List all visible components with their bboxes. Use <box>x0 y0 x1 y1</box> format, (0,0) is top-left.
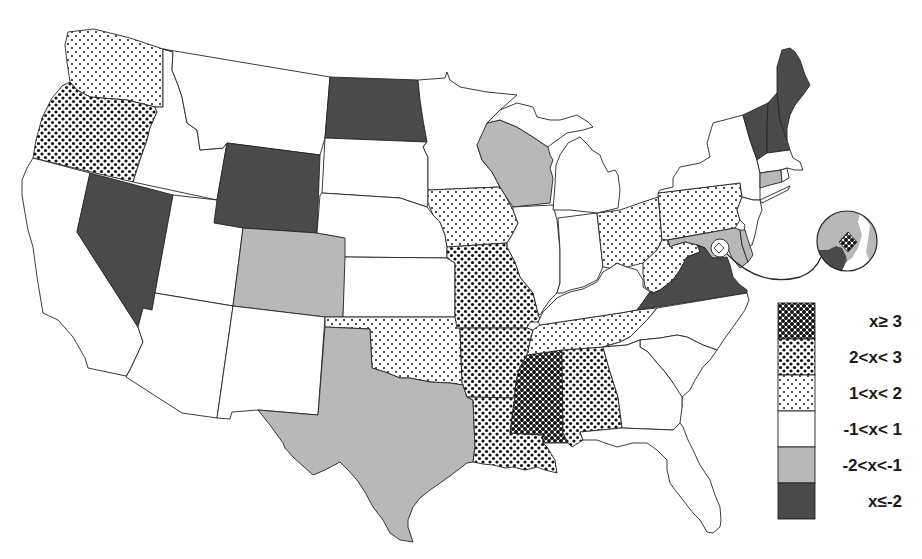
legend: x≥ 3 2<x< 3 1<x< 2 -1<x< 1 -2<x<-1 x≤-2 <box>778 303 902 519</box>
state-new-york-long-island <box>760 186 790 203</box>
state-colorado <box>233 228 347 317</box>
legend-label-2to3: 2<x< 3 <box>849 348 902 367</box>
legend-label-ge3: x≥ 3 <box>869 312 902 331</box>
states-layer <box>22 29 810 542</box>
legend-swatch-neg2toneg1 <box>778 447 815 483</box>
us-choropleth-map: x≥ 3 2<x< 3 1<x< 2 -1<x< 1 -2<x<-1 x≤-2 <box>0 0 922 559</box>
state-florida <box>580 423 721 533</box>
legend-swatch-le-neg2 <box>778 483 815 519</box>
state-rhode-island <box>781 168 789 182</box>
legend-label-1to2: 1<x< 2 <box>849 384 902 403</box>
state-north-dakota <box>325 77 427 142</box>
state-kansas <box>343 257 455 317</box>
state-arizona <box>126 293 233 418</box>
state-indiana <box>557 213 603 293</box>
state-new-mexico <box>217 306 325 419</box>
state-maine <box>777 48 810 140</box>
legend-swatch-neg1to1 <box>778 411 815 447</box>
legend-label-neg2toneg1: -2<x<-1 <box>842 456 902 475</box>
legend-label-neg1to1: -1<x< 1 <box>843 420 902 439</box>
legend-swatch-2to3 <box>778 339 815 375</box>
state-wyoming <box>214 143 320 233</box>
state-connecticut <box>760 170 782 188</box>
state-michigan-lower <box>553 137 620 213</box>
legend-swatch-ge3 <box>778 303 815 339</box>
dc-inset <box>810 209 880 275</box>
legend-swatch-1to2 <box>778 375 815 411</box>
legend-label-le-neg2: x≤-2 <box>868 492 902 511</box>
